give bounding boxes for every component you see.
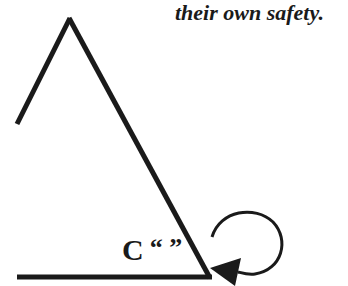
label-quotes: “ ” (150, 233, 183, 262)
arrowhead-icon (210, 258, 241, 286)
triangle-left-edge (17, 18, 70, 124)
diagram-label: C“ ” (122, 233, 182, 269)
label-letter: C (122, 233, 144, 266)
